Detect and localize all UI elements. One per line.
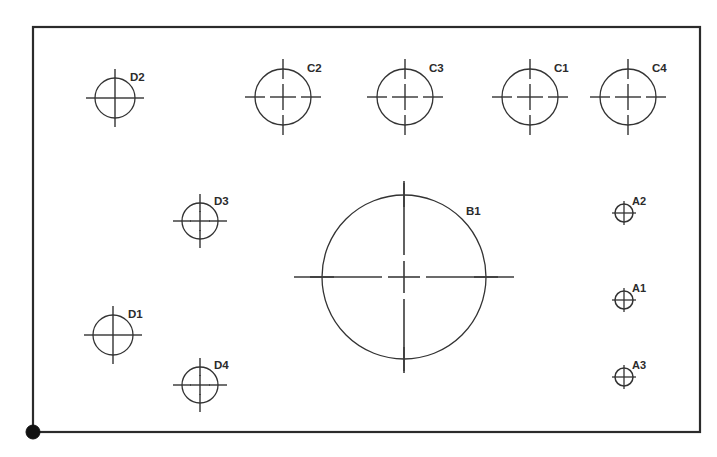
datum-origin-marker[interactable]: [26, 425, 40, 439]
cad-drawing-svg: D2C2C3C1C4D3B1D1D4A2A1A3: [0, 0, 717, 457]
datum-origin-group: [26, 425, 40, 439]
hole-label-b1: B1: [466, 205, 481, 217]
hole-label-a3: A3: [632, 359, 646, 371]
hole-label-a2: A2: [632, 195, 646, 207]
hole-label-d3: D3: [214, 195, 229, 207]
drawing-background: [0, 0, 717, 457]
hole-label-c4: C4: [652, 62, 667, 74]
technical-drawing-canvas: D2C2C3C1C4D3B1D1D4A2A1A3: [0, 0, 717, 457]
hole-label-c3: C3: [429, 62, 444, 74]
hole-label-d2: D2: [130, 71, 145, 83]
hole-label-a1: A1: [632, 282, 646, 294]
hole-label-c2: C2: [307, 62, 322, 74]
hole-label-d4: D4: [214, 359, 229, 371]
hole-label-c1: C1: [554, 62, 569, 74]
hole-label-d1: D1: [128, 308, 143, 320]
